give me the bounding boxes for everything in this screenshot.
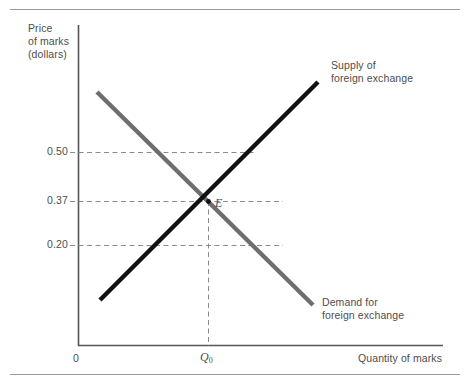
figure-container: Price of marks (dollars) 0.50 0.37 0.20 … [0,0,468,384]
y-axis-title: Price of marks (dollars) [28,22,69,61]
origin-label: 0 [73,352,79,365]
supply-curve [100,82,318,300]
y-tick-label-050: 0.50 [47,145,68,158]
q0-base: Q [200,350,209,364]
x-axis-title: Quantity of marks [358,352,442,365]
y-tick-label-020: 0.20 [47,238,68,251]
quantity-q0-label: Q0 [200,350,213,365]
equilibrium-point-marker [206,199,211,204]
q0-subscript: 0 [209,356,213,365]
equilibrium-point-label: E [215,196,222,211]
supply-demand-plot [0,0,468,384]
y-tick-label-037: 0.37 [47,194,68,207]
supply-curve-annotation: Supply of foreign exchange [331,59,413,85]
demand-curve-annotation: Demand for foreign exchange [322,296,404,322]
